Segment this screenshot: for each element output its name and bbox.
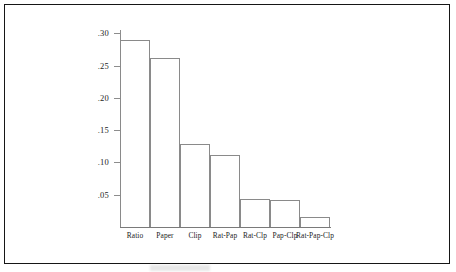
bar (270, 200, 300, 227)
x-axis-tick-label: Rat-Clp (243, 231, 267, 240)
bar (210, 155, 240, 227)
y-axis-tick (114, 33, 120, 34)
x-axis-tick-label: Ratio (127, 231, 144, 240)
bar (300, 217, 330, 227)
y-axis-tick-label: .25 (98, 61, 109, 71)
bar (180, 144, 210, 227)
figure-root: .30.25.20.15.10.05 RatioPaperClipRat-Pap… (0, 0, 456, 272)
x-axis-tick-label: Pap-Clp (273, 231, 298, 240)
x-axis-tick-label: Rat-Pap (213, 231, 238, 240)
y-axis-tick-label: .05 (98, 190, 109, 200)
bar (240, 199, 270, 227)
x-axis-tick-label: Paper (156, 231, 173, 240)
y-axis-tick-label: .30 (98, 28, 109, 38)
bar (150, 58, 180, 227)
scan-artifact (150, 265, 210, 271)
x-axis-baseline (120, 227, 331, 228)
y-axis-tick-label: .15 (98, 125, 109, 135)
y-axis-tick-label: .10 (98, 157, 109, 167)
x-axis-tick-label: Rat-Pap-Clp (296, 231, 334, 240)
bar (120, 40, 150, 227)
y-axis-tick-label: .20 (98, 93, 109, 103)
x-axis-tick-label: Clip (188, 231, 201, 240)
